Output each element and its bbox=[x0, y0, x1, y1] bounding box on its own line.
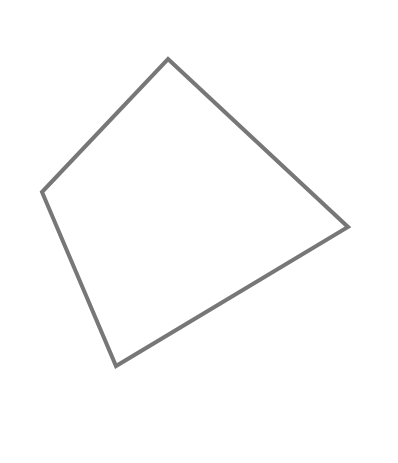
quadrilateral-figure bbox=[0, 0, 398, 463]
diagram-canvas bbox=[0, 0, 398, 463]
quadrilateral-shape bbox=[42, 59, 348, 366]
